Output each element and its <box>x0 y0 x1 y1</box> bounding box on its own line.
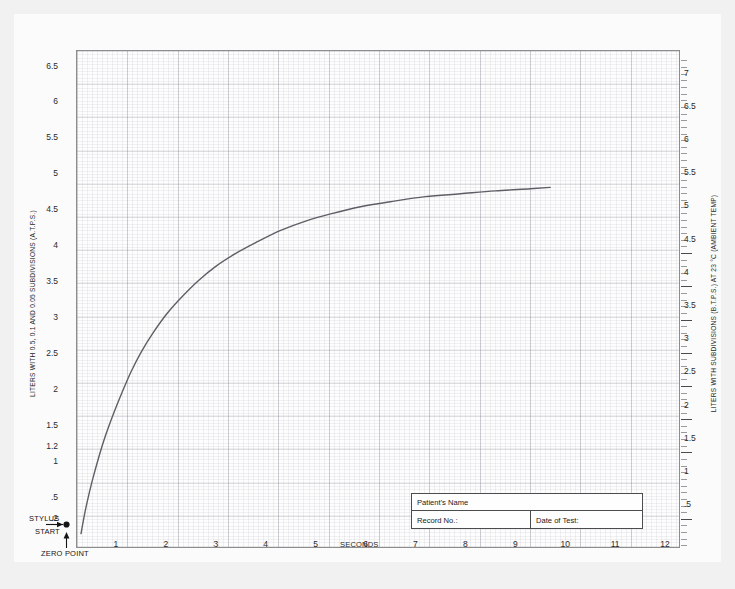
right-minor-tick <box>681 187 687 188</box>
x-axis-title: SECONDS <box>340 540 379 549</box>
right-axis-title: LITERS WITH SUBDIVISIONS (B.T.P.S.) AT 2… <box>710 179 717 429</box>
date-of-test-field[interactable]: Date of Test: <box>531 511 642 529</box>
x-tick-label: 9 <box>505 540 525 549</box>
right-minor-tick <box>681 87 687 88</box>
y-tick-label: .5 <box>51 493 58 502</box>
y-tick-label: 6.5 <box>46 62 58 71</box>
x-tick-label: 4 <box>256 540 276 549</box>
right-minor-tick <box>681 459 687 460</box>
y-tick-label: 3 <box>53 313 58 322</box>
right-minor-tick <box>681 426 687 427</box>
right-minor-tick <box>681 313 687 314</box>
right-minor-tick <box>681 379 687 380</box>
plot-area <box>76 50 680 548</box>
y2-tick-label: 6.5 <box>684 102 696 111</box>
y-tick-label: 4.5 <box>46 205 58 214</box>
x-tick-label: 3 <box>206 540 226 549</box>
right-minor-tick <box>681 120 687 121</box>
right-minor-tick <box>681 160 687 161</box>
x-tick-label: 2 <box>156 540 176 549</box>
chart-paper <box>14 14 721 562</box>
record-no-label: Record No.: <box>417 516 458 525</box>
y-tick-label: 6 <box>53 97 58 106</box>
right-minor-tick <box>681 512 687 513</box>
y2-tick-label: .5 <box>684 500 691 509</box>
y-tick-label: 1 <box>53 457 58 466</box>
right-minor-tick <box>681 60 687 61</box>
right-minor-tick <box>681 413 687 414</box>
x-tick-label: 5 <box>306 540 326 549</box>
y-tick-label: 3.5 <box>46 277 58 286</box>
right-minor-tick <box>681 326 687 327</box>
right-minor-tick <box>681 479 687 480</box>
spirogram-curve <box>77 51 680 548</box>
right-minor-tick <box>681 280 687 281</box>
y-tick-label: 4 <box>53 241 58 250</box>
right-minor-tick <box>681 220 687 221</box>
y2-tick-label: 1.5 <box>684 434 696 443</box>
right-minor-tick <box>681 80 687 81</box>
x-tick-label: 7 <box>405 540 425 549</box>
y-tick-label: 2.5 <box>46 349 58 358</box>
right-minor-tick <box>681 180 687 181</box>
right-major-tick <box>681 386 692 387</box>
y2-tick-label: 3.5 <box>684 301 696 310</box>
patient-info-box: Patient's Name Record No.: Date of Test: <box>411 493 643 529</box>
x-tick-label: 10 <box>555 540 575 549</box>
right-minor-tick <box>681 114 687 115</box>
start-label: START <box>35 527 60 536</box>
y2-tick-label: 2.5 <box>684 367 696 376</box>
volume-time-curve-path <box>81 187 550 533</box>
right-minor-tick <box>681 153 687 154</box>
right-minor-tick <box>681 393 687 394</box>
left-axis-title: LITERS WITH 0.5, 0.1 AND 0.05 SUBDIVISIO… <box>29 199 36 409</box>
y-tick-label: 5.5 <box>46 133 58 142</box>
screenshot-root: 6.565.554.543.532.521.51.21.5.2 76.565.5… <box>0 0 735 589</box>
right-major-tick <box>681 353 692 354</box>
right-major-tick <box>681 419 692 420</box>
right-major-tick <box>681 320 692 321</box>
right-minor-tick <box>681 492 687 493</box>
y2-tick-label: 6 <box>684 135 689 144</box>
patient-name-label: Patient's Name <box>417 498 468 507</box>
y2-tick-label: 5.5 <box>684 168 696 177</box>
x-tick-label: 8 <box>455 540 475 549</box>
y-tick-label: 1.5 <box>46 421 58 430</box>
right-minor-tick <box>681 525 687 526</box>
stylus-label: STYLUS <box>29 514 59 523</box>
form-bottom-row: Record No.: Date of Test: <box>412 511 642 529</box>
right-minor-tick <box>681 486 687 487</box>
y2-tick-label: 2 <box>684 401 689 410</box>
right-minor-tick <box>681 127 687 128</box>
right-major-tick <box>681 452 692 453</box>
x-tick-label: 12 <box>655 540 675 549</box>
y-tick-label: 5 <box>53 169 58 178</box>
y-tick-label: 1.2 <box>46 442 58 451</box>
right-major-tick <box>681 253 692 254</box>
right-major-tick <box>681 519 692 520</box>
zero-point-label: ZERO POINT <box>41 549 89 558</box>
right-minor-tick <box>681 260 687 261</box>
right-minor-tick <box>681 193 687 194</box>
y2-tick-label: 1 <box>684 467 689 476</box>
y2-tick-label: 4 <box>684 268 689 277</box>
y-tick-label: 2 <box>53 385 58 394</box>
right-minor-tick <box>681 213 687 214</box>
right-minor-tick <box>681 446 687 447</box>
patient-name-field[interactable]: Patient's Name <box>412 494 642 511</box>
right-minor-tick <box>681 346 687 347</box>
y2-tick-label: 4.5 <box>684 235 696 244</box>
x-tick-label: 1 <box>106 540 126 549</box>
date-of-test-label: Date of Test: <box>536 516 579 525</box>
right-minor-tick <box>681 246 687 247</box>
right-minor-tick <box>681 359 687 360</box>
record-no-field[interactable]: Record No.: <box>412 511 531 529</box>
right-major-tick <box>681 286 692 287</box>
right-minor-tick <box>681 293 687 294</box>
y2-tick-label: 7 <box>684 69 689 78</box>
right-minor-tick <box>681 94 687 95</box>
right-minor-tick <box>681 227 687 228</box>
y2-tick-label: 3 <box>684 334 689 343</box>
right-minor-tick <box>681 532 687 533</box>
x-tick-label: 11 <box>605 540 625 549</box>
